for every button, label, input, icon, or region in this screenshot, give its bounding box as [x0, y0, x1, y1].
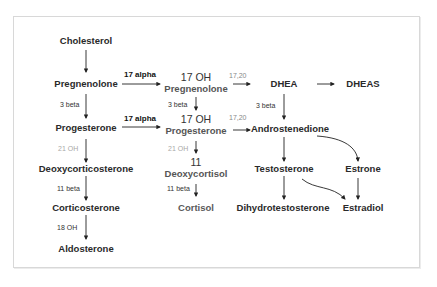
node-estrone: Estrone	[345, 163, 380, 174]
node-pregnenolone: Pregnenolone	[54, 78, 117, 89]
enzyme-21oh-1: 21 OH	[58, 145, 78, 152]
node-dheas: DHEAS	[346, 78, 379, 89]
node-17oh-progesterone-line2: Progesterone	[165, 125, 226, 136]
node-estradiol: Estradiol	[343, 202, 384, 213]
node-dhea: DHEA	[271, 78, 298, 89]
node-11-deoxycortisol: 11 Deoxycortisol	[165, 157, 228, 179]
enzyme-11beta-2: 11 beta	[167, 185, 190, 192]
arrow-androstenedione-estrone	[317, 136, 358, 161]
enzyme-18oh: 18 OH	[57, 224, 77, 231]
node-dihydrotestosterone: Dihydrotestosterone	[237, 202, 330, 213]
enzyme-3beta-3: 3 beta	[256, 102, 275, 109]
enzyme-17alpha-1: 17 alpha	[124, 70, 156, 79]
node-testosterone: Testosterone	[255, 163, 314, 174]
enzyme-3beta-2: 3 beta	[168, 101, 187, 108]
node-cholesterol: Cholesterol	[60, 35, 112, 46]
node-17oh-pregnenolone-line2: Pregnenolone	[164, 83, 227, 94]
node-11-deoxycortisol-line1: 11	[165, 157, 228, 168]
enzyme-3beta-1: 3 beta	[60, 101, 79, 108]
node-17oh-pregnenolone-line1: 17 OH	[164, 72, 227, 83]
node-aldosterone: Aldosterone	[58, 243, 113, 254]
enzyme-21oh-2: 21 OH	[168, 145, 188, 152]
node-androstenedione: Androstenedione	[251, 123, 329, 134]
enzyme-11beta-1: 11 beta	[57, 185, 80, 192]
arrow-testosterone-estradiol	[302, 179, 345, 199]
node-17oh-pregnenolone: 17 OH Pregnenolone	[164, 72, 227, 94]
node-deoxycorticosterone: Deoxycorticosterone	[39, 163, 134, 174]
node-cortisol: Cortisol	[178, 202, 214, 213]
enzyme-17alpha-2: 17 alpha	[124, 114, 156, 123]
node-11-deoxycortisol-line2: Deoxycortisol	[165, 168, 228, 179]
node-progesterone: Progesterone	[55, 122, 116, 133]
node-17oh-progesterone-line1: 17 OH	[165, 114, 226, 125]
enzyme-17-20-lyase-2: 17,20	[229, 114, 247, 121]
enzyme-17-20-lyase-1: 17,20	[229, 72, 247, 79]
node-17oh-progesterone: 17 OH Progesterone	[165, 114, 226, 136]
node-corticosterone: Corticosterone	[52, 202, 120, 213]
